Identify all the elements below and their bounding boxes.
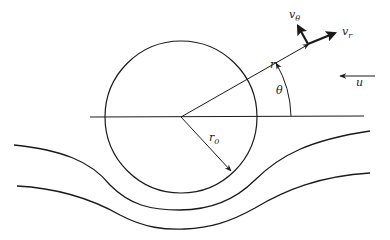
label-theta: θ (276, 84, 283, 97)
flow-past-cylinder-diagram: r r0 θ vr vθ u (0, 0, 390, 240)
horizontal-axis (90, 116, 364, 117)
streamline-1 (14, 131, 370, 210)
radius-vector-r (181, 44, 309, 117)
label-vr: vr (342, 25, 353, 40)
velocity-component-vtheta (298, 26, 308, 44)
velocity-component-vr (308, 33, 335, 44)
label-u: u (356, 76, 363, 89)
radius-r0 (181, 117, 231, 171)
streamline-2 (17, 173, 370, 229)
label-r0: r0 (209, 131, 219, 146)
label-r: r (270, 58, 276, 71)
label-vtheta: vθ (289, 8, 300, 23)
